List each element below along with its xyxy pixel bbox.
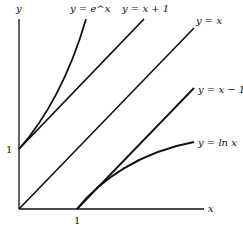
label-identity: y = x bbox=[195, 15, 222, 26]
curve-exp bbox=[19, 19, 86, 149]
y-axis-label: y bbox=[15, 3, 22, 14]
line-x-plus-1 bbox=[19, 19, 144, 149]
x-axis-label: x bbox=[208, 203, 214, 214]
curve-ln bbox=[77, 142, 194, 209]
y-tick-label: 1 bbox=[6, 144, 12, 155]
label-exp: y = e^x bbox=[69, 3, 111, 14]
label-x-plus-1: y = x + 1 bbox=[121, 3, 169, 14]
label-x-minus-1: y = x − 1 bbox=[197, 84, 243, 95]
x-tick-label: 1 bbox=[74, 215, 80, 226]
line-identity bbox=[19, 28, 194, 209]
functions-diagram: y x 1 1 y = e^x y = x + 1 y = x y = x − … bbox=[0, 0, 243, 230]
label-ln: y = ln x bbox=[197, 137, 237, 148]
